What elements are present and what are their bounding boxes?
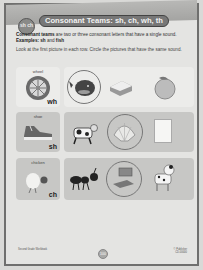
intro-definition: are two or three consonant letters that …: [55, 32, 177, 37]
peach-icon[interactable]: [152, 73, 178, 101]
dog-icon[interactable]: [150, 162, 178, 194]
choices-panel: [64, 67, 194, 107]
example-1: sh: [39, 38, 46, 43]
sandwich-icon[interactable]: [108, 79, 134, 97]
examples-label: Examples:: [16, 38, 39, 43]
digraph-label: sh: [49, 143, 57, 150]
key-picture-panel: wheel wh: [16, 67, 60, 107]
row-wheel: wheel wh: [16, 67, 194, 107]
choices-panel: [64, 112, 194, 152]
choices-panel: [64, 158, 194, 200]
catalog-line: CD-00000: [174, 251, 187, 254]
shoe-icon: [22, 122, 54, 142]
cow-icon[interactable]: [70, 120, 98, 146]
row-chicken: chicken ch: [16, 158, 194, 200]
ant-icon[interactable]: [68, 168, 102, 192]
and-text: and: [46, 38, 55, 43]
page-title: Consonant Teams: sh, ch, wh, th: [39, 15, 169, 27]
chicken-icon: [22, 167, 52, 195]
digraph-label: wh: [47, 98, 57, 105]
choice-whale[interactable]: [67, 70, 101, 104]
footer-right-text: © Publisher CD-00000: [174, 248, 187, 255]
worksheet-page: sh ch Consonant Teams: sh, ch, wh, th Co…: [4, 3, 199, 266]
page-number: 100: [98, 249, 108, 259]
choice-laptop[interactable]: [106, 161, 142, 197]
intro-term: Consonant teams: [16, 32, 55, 37]
keyword-label: wheel: [16, 69, 60, 74]
instructions: Look at the first picture in each row. C…: [16, 47, 192, 53]
row-shoe: shoe sh: [16, 112, 194, 152]
key-picture-panel: chicken ch: [16, 158, 60, 200]
digraph-label: ch: [49, 191, 57, 198]
whale-icon: [68, 71, 99, 102]
paper-icon[interactable]: [154, 119, 172, 143]
shell-icon: [108, 115, 141, 148]
intro-text: Consonant teams are two or three consona…: [16, 32, 192, 43]
example-2: fish: [55, 38, 64, 43]
keyword-label: shoe: [16, 114, 60, 119]
keyword-label: chicken: [16, 160, 60, 165]
key-picture-panel: shoe sh: [16, 112, 60, 152]
choice-shell[interactable]: [107, 114, 143, 150]
laptop-icon: [107, 162, 140, 195]
badge-text: sh ch: [19, 22, 34, 28]
footer-left-text: Second Grade Workbook: [18, 248, 47, 251]
